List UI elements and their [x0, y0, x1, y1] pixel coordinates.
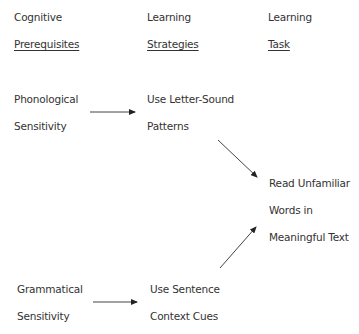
arrows-layer	[0, 0, 359, 334]
arrow-sentence-to-task	[220, 227, 256, 268]
arrow-letter-sound-to-task	[218, 140, 257, 177]
